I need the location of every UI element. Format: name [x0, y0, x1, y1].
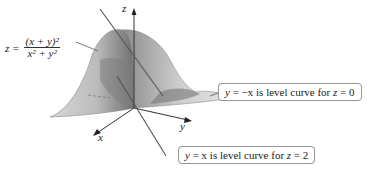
callout2-text: is level curve for — [207, 149, 287, 161]
formula-lhs: z = — [5, 42, 19, 54]
callout2-zval: = 2 — [291, 149, 308, 161]
callout1-expr: = −x — [230, 86, 253, 98]
callout-level-curve-z0: y = −x is level curve for z = 0 — [218, 83, 362, 101]
callout-level-curve-z2: y = x is level curve for z = 2 — [178, 146, 315, 164]
x-axis-label: x — [98, 131, 103, 143]
z-axis-label: z — [122, 2, 126, 14]
callout1-text: is level curve for — [253, 86, 333, 98]
callout2-expr: = x — [190, 149, 207, 161]
formula-leader — [76, 42, 98, 51]
y-axis-label: y — [180, 120, 185, 132]
surface-formula: z = (x + y)² x² + y² — [5, 36, 60, 59]
callout1-zval: = 0 — [337, 86, 354, 98]
formula-denominator: x² + y² — [27, 48, 56, 59]
formula-fraction: (x + y)² x² + y² — [24, 36, 59, 59]
y-axis — [134, 108, 188, 120]
